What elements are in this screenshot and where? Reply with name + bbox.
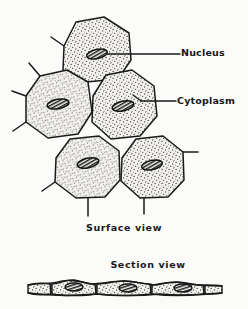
cell-bottom-right [121,136,198,214]
cell-left-spike-top [29,63,40,76]
nucleus [119,284,137,292]
nucleus [65,283,83,291]
surface-view-group [12,17,198,216]
cell-top-spike [51,37,64,46]
cell-bottom-left [42,136,120,216]
section-view-group [28,280,222,296]
cell-bottom-left-spike-w [42,182,55,191]
cell-left-spike-mid [12,91,26,96]
figure-canvas: Nucleus Cytoplasm Surface view Section v… [0,0,248,309]
caption-section-view: Section view [0,259,248,270]
label-cytoplasm: Cytoplasm [177,95,235,106]
nucleus [174,284,192,292]
cell-left-spike-low [13,122,26,131]
label-nucleus: Nucleus [181,47,225,58]
caption-surface-view: Surface view [0,222,248,233]
